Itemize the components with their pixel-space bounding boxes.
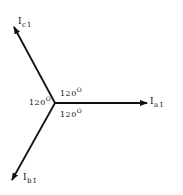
label-ic1: Ic1 <box>18 16 32 29</box>
angle-bc-degree: O <box>46 95 51 102</box>
angle-ab-value: 120 <box>60 110 77 119</box>
label-ia1-subscript: a1 <box>154 101 165 109</box>
angle-ca-degree: O <box>77 86 82 93</box>
phasor-ic1-line <box>14 27 55 103</box>
label-ia1: Ia1 <box>150 96 165 109</box>
angle-label-bc: 120O <box>29 95 51 107</box>
label-ib1-subscript: b1 <box>27 177 38 185</box>
angle-ab-degree: O <box>77 107 82 114</box>
angle-ca-value: 120 <box>60 89 77 98</box>
label-ib1: Ib1 <box>23 172 38 185</box>
angle-bc-value: 120 <box>29 98 46 107</box>
phasor-ib1-line <box>12 103 55 180</box>
label-ic1-subscript: c1 <box>22 21 32 29</box>
angle-label-ca: 120O <box>60 86 82 98</box>
angle-label-ab: 120O <box>60 107 82 119</box>
